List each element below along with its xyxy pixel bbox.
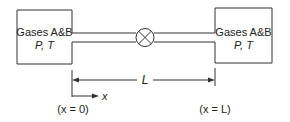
left-box-conditions: P, T	[35, 39, 55, 51]
length-label: L	[142, 73, 149, 87]
arrowhead-right-icon	[208, 78, 215, 83]
x-zero-label: (x = 0)	[57, 103, 88, 115]
x-arrowhead-icon	[92, 94, 99, 99]
x-axis-label: x	[101, 90, 108, 102]
valve-icon	[136, 29, 154, 47]
left-box-title: Gases A&B	[16, 26, 72, 38]
right-box-conditions: P, T	[234, 39, 254, 51]
diffusion-diagram: Gases A&B P, T Gases A&B P, T L x (x = 0…	[0, 0, 290, 122]
arrowhead-left-icon	[72, 78, 79, 83]
x-l-label: (x = L)	[199, 103, 230, 115]
right-box-title: Gases A&B	[215, 26, 271, 38]
